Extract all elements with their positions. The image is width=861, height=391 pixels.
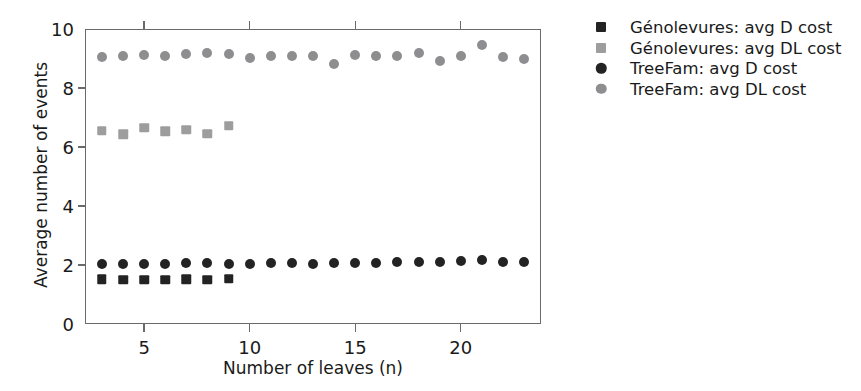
data-point [97,274,107,284]
chart-figure: Average number of events 0246810 5101520… [0,0,861,391]
x-tick-label: 20 [449,337,472,358]
data-point [350,258,360,268]
legend-item: TreeFam: avg D cost [592,58,857,79]
legend-marker [596,22,606,32]
data-point [245,53,255,63]
y-tick-label: 8 [63,78,74,99]
x-axis-title: Number of leaves (n) [85,358,541,378]
data-point [139,123,149,133]
data-point [202,48,212,58]
x-tick-mark-top [143,21,144,29]
data-point [203,129,213,139]
chart-legend: Génolevures: avg D costGénolevures: avg … [592,17,857,99]
y-tick-label: 6 [63,137,74,158]
y-axis-title: Average number of events [31,35,51,315]
y-tick-label: 0 [63,314,74,335]
data-point [118,129,128,139]
data-point [224,259,234,269]
data-point [392,51,402,61]
data-point [203,275,213,285]
plot-area: 0246810 5101520 [85,29,541,324]
data-point [160,275,170,285]
x-tick-mark-top [460,21,461,29]
y-tick-label: 4 [63,196,74,217]
x-tick-label: 5 [138,337,149,358]
x-tick-mark-top [249,21,250,29]
data-point [139,275,149,285]
x-tick-mark [249,324,250,332]
data-point [414,48,424,58]
data-point [519,257,529,267]
data-point [118,275,128,285]
data-point [308,51,318,61]
data-point [456,51,466,61]
data-point [371,258,381,268]
x-tick-label: 15 [344,337,367,358]
legend-circle-icon [592,58,610,79]
legend-label: TreeFam: avg DL cost [630,79,806,98]
data-point [287,258,297,268]
x-tick-mark [143,324,144,332]
legend-label: Génolevures: avg D cost [630,18,832,37]
legend-marker [596,43,606,53]
data-point [160,259,170,269]
data-point [498,257,508,267]
data-point [224,274,234,284]
x-tick-mark [460,324,461,332]
x-tick-label: 10 [238,337,261,358]
data-point [266,258,276,268]
data-point [371,51,381,61]
data-point [498,52,508,62]
data-point [245,259,255,269]
data-point [181,258,191,268]
data-point [118,51,128,61]
data-point [308,259,318,269]
data-point [202,258,212,268]
data-point [97,52,107,62]
data-point [456,256,466,266]
y-tick-label: 2 [63,255,74,276]
legend-square-icon [592,17,610,38]
data-point [139,50,149,60]
data-point [414,257,424,267]
legend-item: Génolevures: avg D cost [592,17,857,38]
legend-marker [596,63,607,74]
x-tick-mark [355,324,356,332]
data-point [329,59,339,69]
data-point [224,49,234,59]
y-tick-mark [78,87,85,88]
data-point [160,51,170,61]
legend-circle-icon [592,79,610,100]
data-point [118,259,128,269]
data-point [266,51,276,61]
data-point [97,126,107,136]
data-point [182,125,192,135]
legend-label: Génolevures: avg DL cost [630,38,841,57]
data-point [477,40,487,50]
data-point [435,257,445,267]
y-tick-mark [78,264,85,265]
data-point [477,255,487,265]
data-point [287,51,297,61]
data-point [97,259,107,269]
y-tick-mark [78,146,85,147]
data-point [329,258,339,268]
data-point [181,49,191,59]
data-point [139,259,149,269]
data-point [160,126,170,136]
data-point [519,54,529,64]
y-tick-label: 10 [51,19,74,40]
data-point [435,56,445,66]
legend-item: Génolevures: avg DL cost [592,38,857,59]
legend-item: TreeFam: avg DL cost [592,79,857,100]
legend-square-icon [592,38,610,59]
x-tick-mark-top [355,21,356,29]
data-point [392,257,402,267]
y-tick-mark [78,205,85,206]
data-point [350,50,360,60]
data-point [224,121,234,131]
legend-label: TreeFam: avg D cost [630,59,797,78]
data-point [182,274,192,284]
legend-marker [596,84,607,95]
